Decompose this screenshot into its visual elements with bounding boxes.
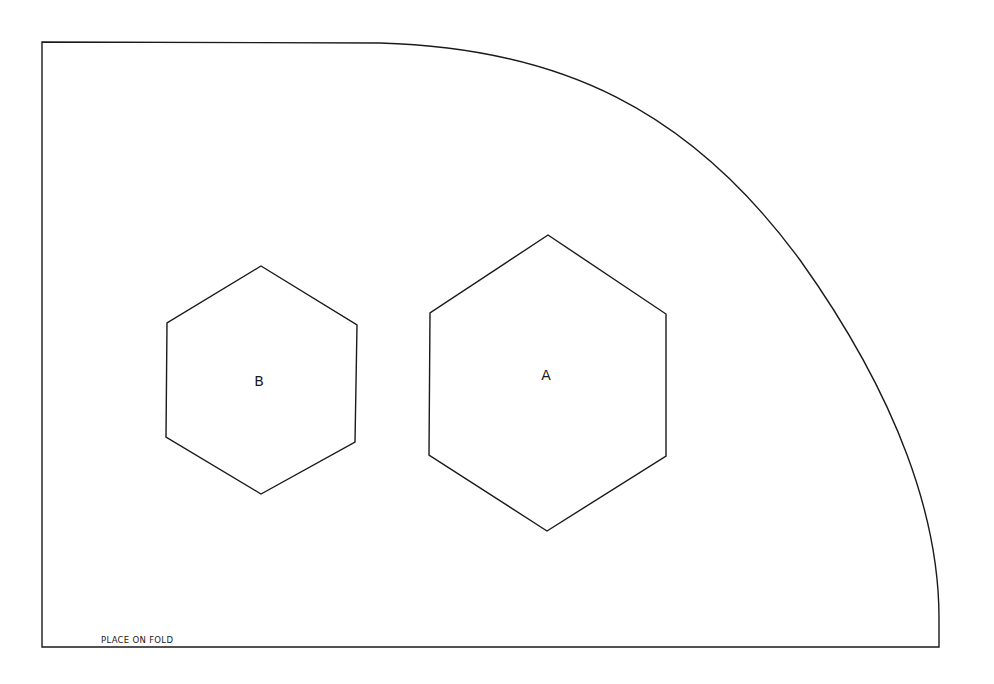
hexagon-piece-a [429,235,666,531]
pattern-outline [42,42,939,647]
piece-label-b: B [254,373,264,389]
sewing-pattern-diagram [0,0,994,684]
piece-label-a: A [541,367,551,383]
place-on-fold-note: PLACE ON FOLD [101,635,173,645]
